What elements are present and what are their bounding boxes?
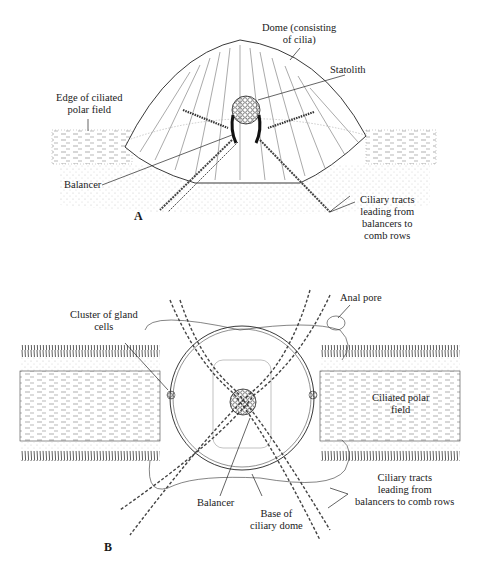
label-tracts-a-line4: comb rows — [360, 230, 415, 242]
label-balancer-b: Balancer — [197, 497, 234, 509]
panel-letter-a: A — [134, 209, 143, 224]
label-tracts-b-line3: balancers to comb rows — [355, 496, 454, 508]
label-tracts-b: Ciliary tracts leading from balancers to… — [355, 472, 454, 508]
statolith-b — [230, 389, 256, 415]
label-polar-line2: field — [372, 404, 429, 416]
label-edge-line1: Edge of ciliated — [56, 92, 122, 104]
label-base-line2: ciliary dome — [250, 520, 303, 532]
label-dome-line2: of cilia) — [262, 34, 336, 46]
label-tracts-b-line1: Ciliary tracts — [355, 472, 454, 484]
label-anal-pore: Anal pore — [340, 292, 382, 304]
label-dome-line1: Dome (consisting — [262, 22, 336, 34]
panel-letter-b: B — [104, 540, 112, 555]
label-tracts-a-line3: balancers to — [360, 218, 415, 230]
label-ciliated-polar-field: Ciliated polar field — [372, 392, 429, 416]
label-gland-line2: cells — [70, 321, 138, 333]
label-base-line1: Base of — [250, 508, 303, 520]
statolith — [232, 96, 260, 124]
label-edge-polar-field: Edge of ciliated polar field — [56, 92, 122, 116]
label-tracts-a-line2: leading from — [360, 206, 415, 218]
label-tracts-b-line2: leading from — [355, 484, 454, 496]
label-balancer-a: Balancer — [64, 179, 101, 191]
label-dome: Dome (consisting of cilia) — [262, 22, 336, 46]
label-statolith: Statolith — [330, 64, 366, 76]
label-tracts-a-line1: Ciliary tracts — [360, 194, 415, 206]
label-gland-line1: Cluster of gland — [70, 309, 138, 321]
label-gland-cells: Cluster of gland cells — [70, 309, 138, 333]
panel-a-drawing — [52, 40, 436, 215]
label-tracts-a: Ciliary tracts leading from balancers to… — [360, 194, 415, 242]
label-polar-line1: Ciliated polar — [372, 392, 429, 404]
label-edge-line2: polar field — [56, 104, 122, 116]
label-base-ciliary-dome: Base of ciliary dome — [250, 508, 303, 532]
